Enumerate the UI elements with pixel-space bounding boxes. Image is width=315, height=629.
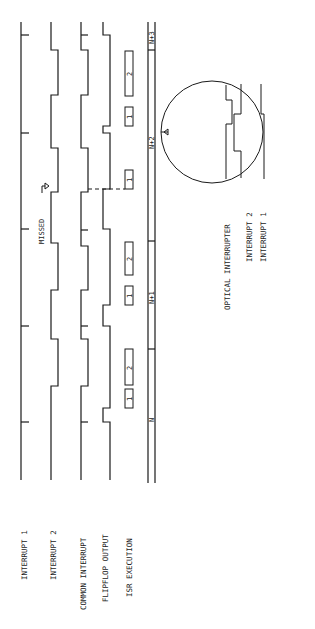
label-isr-execution: ISR EXECUTION [125, 538, 134, 597]
svg-text:2: 2 [126, 366, 134, 370]
isr-box: 1 [125, 170, 134, 189]
period-label-n2: N+2 [148, 136, 156, 149]
period-label-n: N [148, 418, 156, 422]
label-interrupt-2: INTERRUPT 2 [49, 530, 58, 580]
isr-box: 1 [125, 107, 134, 126]
isr-box: 2 [125, 242, 134, 275]
svg-text:1: 1 [126, 294, 134, 298]
label-flipflop-output: FLIPFLOP OUTPUT [101, 534, 110, 602]
period-label-n3: N+3 [148, 31, 156, 44]
svg-text:1: 1 [126, 115, 134, 119]
label-common-interrupt: COMMON INTERRUPT [79, 537, 88, 610]
signal-labels: INTERRUPT 1 INTERRUPT 2 COMMON INTERRUPT… [20, 530, 134, 610]
period-label-n1: N+1 [148, 291, 156, 304]
isr-box: 1 [125, 286, 134, 305]
svg-text:1: 1 [126, 397, 134, 401]
optical-interrupter-inset: OPTICAL INTERRUPTER INTERRUPT 2 INTERRUP… [161, 81, 268, 310]
interrupt-2-trace [51, 22, 58, 480]
isr-execution-trace: 2 1 1 2 1 2 1 [125, 51, 134, 408]
time-axis: N+3 N+2 N+1 N [148, 22, 156, 483]
timing-diagram: MISSED 2 1 1 2 1 2 1 [0, 0, 315, 629]
missed-label: MISSED [38, 219, 46, 244]
flipflop-output-trace [88, 22, 125, 480]
isr-box: 1 [125, 389, 134, 408]
label-interrupt-1: INTERRUPT 1 [20, 530, 29, 580]
interrupt-1-trace [21, 22, 29, 480]
inset-label-interrupt-2: INTERRUPT 2 [245, 212, 254, 262]
isr-box: 2 [125, 349, 134, 385]
isr-box: 2 [125, 51, 134, 96]
svg-text:1: 1 [126, 178, 134, 182]
svg-text:2: 2 [126, 72, 134, 76]
inset-label-interrupt-1: INTERRUPT 1 [259, 212, 268, 262]
missed-annotation: MISSED [38, 183, 49, 244]
inset-title: OPTICAL INTERRUPTER [223, 224, 232, 310]
common-interrupt-trace [81, 22, 88, 480]
svg-text:2: 2 [126, 257, 134, 261]
